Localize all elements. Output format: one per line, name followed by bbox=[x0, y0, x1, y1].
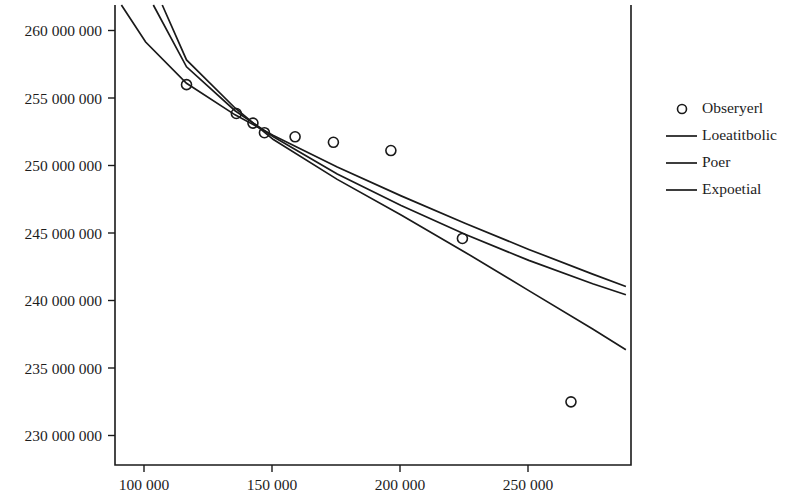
y-tick-label: 245 000 000 bbox=[25, 225, 103, 242]
x-tick-label: 150 000 bbox=[247, 476, 298, 493]
plot-axes bbox=[115, 5, 631, 465]
y-axis-tick-labels: 260 000 000 255 000 000 250 000 000 245 … bbox=[25, 22, 103, 444]
observed-points bbox=[182, 80, 576, 407]
legend-open-circle-icon bbox=[678, 105, 687, 114]
fit-curves bbox=[121, 5, 626, 350]
y-tick-label: 250 000 000 bbox=[25, 157, 103, 174]
chart-legend: Obseryerl Loeatitbolic Poer Expoetial bbox=[666, 99, 777, 197]
x-tick-label: 100 000 bbox=[119, 476, 170, 493]
legend-entry-obseryerl: Obseryerl bbox=[678, 99, 764, 116]
legend-entry-expoetial: Expoetial bbox=[666, 180, 761, 197]
y-tick-label: 230 000 000 bbox=[25, 427, 103, 444]
y-tick-label: 240 000 000 bbox=[25, 292, 103, 309]
chart-figure: 260 000 000 255 000 000 250 000 000 245 … bbox=[0, 0, 801, 499]
data-point bbox=[566, 397, 576, 407]
x-axis-ticks bbox=[144, 465, 528, 472]
legend-label: Poer bbox=[702, 153, 731, 170]
scatter-plot: 260 000 000 255 000 000 250 000 000 245 … bbox=[0, 0, 801, 499]
legend-label: Obseryerl bbox=[702, 99, 763, 116]
fit-curve-poer bbox=[153, 5, 626, 295]
fit-curve-expoetial bbox=[162, 5, 626, 350]
data-point bbox=[290, 132, 300, 142]
data-point bbox=[457, 233, 467, 243]
data-point bbox=[328, 137, 338, 147]
fit-curve-loeatitbolic bbox=[121, 5, 626, 286]
x-tick-label: 200 000 bbox=[375, 476, 426, 493]
legend-label: Loeatitbolic bbox=[702, 126, 777, 143]
y-tick-label: 235 000 000 bbox=[25, 360, 103, 377]
y-axis-ticks bbox=[108, 31, 115, 436]
x-axis-tick-labels: 100 000 150 000 200 000 250 000 bbox=[119, 476, 554, 493]
legend-entry-loeatitbolic: Loeatitbolic bbox=[666, 126, 777, 143]
y-tick-label: 255 000 000 bbox=[25, 90, 103, 107]
y-tick-label: 260 000 000 bbox=[25, 22, 103, 39]
legend-label: Expoetial bbox=[702, 180, 761, 197]
legend-entry-poer: Poer bbox=[666, 153, 731, 170]
x-tick-label: 250 000 bbox=[503, 476, 554, 493]
axis-frame bbox=[115, 5, 631, 465]
data-point bbox=[386, 146, 396, 156]
